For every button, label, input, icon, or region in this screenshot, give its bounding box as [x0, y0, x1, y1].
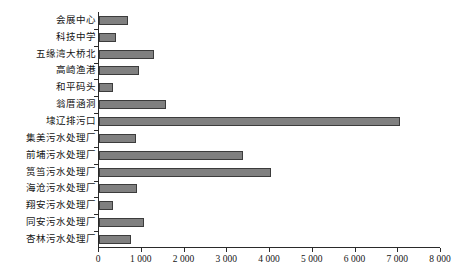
- bar: [99, 117, 400, 126]
- category-label: 集美污水处理厂: [4, 133, 96, 144]
- y-axis-tick: [94, 197, 98, 198]
- bar-row: 科技中学: [0, 29, 452, 46]
- bar: [99, 151, 243, 160]
- x-axis-label: 0: [96, 254, 101, 265]
- y-axis-tick: [94, 130, 98, 131]
- bar: [99, 66, 139, 75]
- bar: [99, 201, 113, 210]
- bar: [99, 218, 144, 227]
- y-axis-tick: [94, 231, 98, 232]
- bar-row: 前埔污水处理厂: [0, 147, 452, 164]
- category-label: 同安污水处理厂: [4, 217, 96, 228]
- bar-track: [99, 29, 441, 46]
- y-axis-tick: [94, 214, 98, 215]
- bar-row: 高崎渔港: [0, 63, 452, 80]
- x-axis-label: 8 000: [429, 254, 450, 265]
- y-axis-tick: [94, 46, 98, 47]
- category-label: 杏林污水处理厂: [4, 234, 96, 245]
- bar-row: 翔安污水处理厂: [0, 197, 452, 214]
- bar-track: [99, 214, 441, 231]
- bar-row: 筼筜污水处理厂: [0, 164, 452, 181]
- y-axis-tick: [94, 79, 98, 80]
- bar-track: [99, 147, 441, 164]
- x-axis-label: 4 000: [258, 254, 279, 265]
- bar-track: [99, 197, 441, 214]
- x-axis-tick: [184, 248, 185, 252]
- bar-track: [99, 164, 441, 181]
- category-label: 前埔污水处理厂: [4, 150, 96, 161]
- category-label: 和平码头: [4, 82, 96, 93]
- bar-chart: 会展中心科技中学五缘湾大桥北高崎渔港和平码头翁厝涵洞埭辽排污口集美污水处理厂前埔…: [0, 0, 452, 275]
- bar-track: [99, 46, 441, 63]
- bar-row: 埭辽排污口: [0, 113, 452, 130]
- x-axis-label: 1 000: [130, 254, 151, 265]
- bar-track: [99, 63, 441, 80]
- bar: [99, 83, 113, 92]
- y-axis-tick: [94, 29, 98, 30]
- category-label: 翁厝涵洞: [4, 99, 96, 110]
- x-axis-label: 5 000: [301, 254, 322, 265]
- x-axis-tick: [440, 248, 441, 252]
- x-axis-tick: [355, 248, 356, 252]
- bar-row: 翁厝涵洞: [0, 96, 452, 113]
- y-axis-tick: [94, 147, 98, 148]
- x-axis-tick: [269, 248, 270, 252]
- bar: [99, 184, 137, 193]
- x-axis-tick: [312, 248, 313, 252]
- bar-row: 同安污水处理厂: [0, 214, 452, 231]
- category-label: 翔安污水处理厂: [4, 200, 96, 211]
- bar-track: [99, 79, 441, 96]
- x-axis-tick: [98, 248, 99, 252]
- x-axis-tick: [141, 248, 142, 252]
- bar-row: 杏林污水处理厂: [0, 231, 452, 248]
- bar: [99, 168, 271, 177]
- y-axis-tick: [94, 113, 98, 114]
- bar-track: [99, 113, 441, 130]
- bar: [99, 50, 154, 59]
- bar: [99, 134, 136, 143]
- x-axis-label: 2 000: [173, 254, 194, 265]
- category-label: 海沧污水处理厂: [4, 183, 96, 194]
- bar-row: 和平码头: [0, 79, 452, 96]
- bar: [99, 33, 116, 42]
- bar: [99, 16, 128, 25]
- bar-row: 海沧污水处理厂: [0, 180, 452, 197]
- category-label: 筼筜污水处理厂: [4, 167, 96, 178]
- x-axis-tick: [226, 248, 227, 252]
- x-axis-label: 7 000: [387, 254, 408, 265]
- y-axis-tick: [94, 164, 98, 165]
- bar-track: [99, 96, 441, 113]
- x-axis-tick: [397, 248, 398, 252]
- bar-rows: 会展中心科技中学五缘湾大桥北高崎渔港和平码头翁厝涵洞埭辽排污口集美污水处理厂前埔…: [0, 12, 452, 248]
- bar-track: [99, 130, 441, 147]
- bar: [99, 235, 131, 244]
- bar-row: 五缘湾大桥北: [0, 46, 452, 63]
- bar-row: 会展中心: [0, 12, 452, 29]
- category-label: 会展中心: [4, 15, 96, 26]
- y-axis-tick: [94, 63, 98, 64]
- bar-track: [99, 12, 441, 29]
- category-label: 五缘湾大桥北: [4, 49, 96, 60]
- bar: [99, 100, 166, 109]
- category-label: 埭辽排污口: [4, 116, 96, 127]
- y-axis-tick: [94, 96, 98, 97]
- bar-track: [99, 231, 441, 248]
- category-label: 科技中学: [4, 32, 96, 43]
- x-axis-label: 6 000: [344, 254, 365, 265]
- bar-track: [99, 180, 441, 197]
- bar-row: 集美污水处理厂: [0, 130, 452, 147]
- y-axis-tick: [94, 181, 98, 182]
- x-axis-label: 3 000: [216, 254, 237, 265]
- category-label: 高崎渔港: [4, 65, 96, 76]
